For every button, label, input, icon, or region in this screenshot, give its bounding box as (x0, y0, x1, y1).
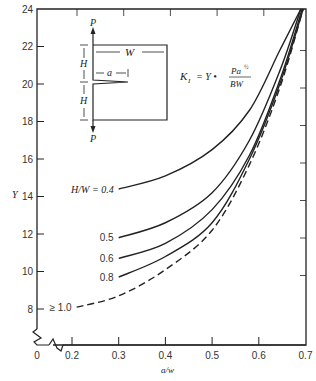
inset-height-label-top: H (79, 58, 88, 69)
y-tick-label: 16 (22, 154, 34, 165)
y-tick-label: 10 (22, 266, 34, 277)
plot-frame (33, 9, 306, 351)
curve-label: 0.6 (100, 253, 114, 264)
x-tick-label: 0.5 (205, 350, 219, 361)
x-tick-label: 0.6 (252, 350, 266, 361)
curve-label: 0.8 (100, 272, 114, 283)
y-tick-label: 12 (22, 229, 34, 240)
y-tick-label: 18 (22, 116, 34, 127)
inset-height-label-bottom: H (79, 95, 88, 106)
x-tick-label: 0.3 (112, 350, 126, 361)
arrow-head-bottom-icon (91, 126, 96, 133)
y-tick-label: 20 (22, 79, 34, 90)
x-tick-label: 0.7 (299, 350, 313, 361)
formula-lhs-subscript: I (187, 77, 191, 85)
x-axis-break-icon (49, 339, 306, 351)
curve-0-8 (119, 9, 303, 277)
formula-lhs: K (179, 70, 188, 82)
formula-numerator-sup: ½ (244, 64, 249, 70)
inset-load-label-bottom: P (89, 133, 96, 144)
arrow-head-top-icon (91, 27, 96, 34)
formula-numerator: Pa (230, 66, 241, 76)
formula-mid: = Y • (196, 71, 217, 82)
y-tick-label: 8 (27, 304, 33, 315)
curve-label: 0.5 (100, 232, 114, 243)
inset-load-label-top: P (89, 17, 96, 28)
y-axis-label: Y (12, 189, 19, 200)
inset-crack-label: a (107, 67, 112, 78)
x-axis-label: a/w (161, 365, 174, 375)
curve-0-6 (119, 9, 303, 258)
y-tick-label: 22 (22, 41, 34, 52)
curve-label: H/W = 0.4 (70, 184, 114, 195)
axes-box (37, 9, 306, 345)
formula-denominator: BW (230, 79, 244, 89)
curve-label: ≥ 1.0 (49, 302, 72, 313)
curve-labels: H/W = 0.40.50.60.8≥ 1.0 (49, 184, 114, 313)
stress-intensity-formula: K I = Y • Pa ½ BW (179, 64, 251, 89)
inset-width-label: W (125, 46, 135, 58)
curve-0-5 (119, 9, 301, 238)
y-tick-label: 14 (22, 191, 34, 202)
x-tick-label: 0.4 (158, 350, 172, 361)
x-tick-label: 0.2 (65, 350, 79, 361)
specimen-inset-diagram (80, 27, 167, 133)
y-axis-break-icon (33, 329, 49, 345)
y-tick-label: 24 (22, 4, 34, 15)
x-tick-label: 0 (34, 350, 40, 361)
chart: 8101214161820222400.20.30.40.50.60.7 H/W… (0, 0, 316, 381)
